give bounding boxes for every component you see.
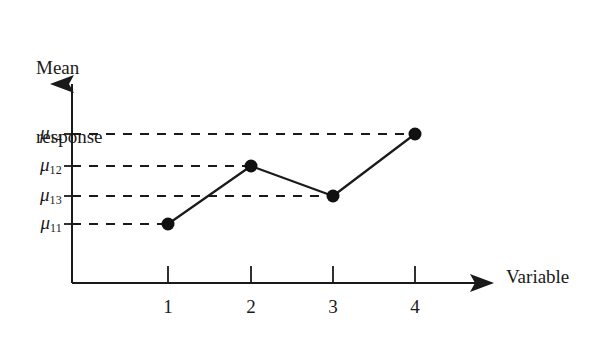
figure-container: Mean response [0, 0, 598, 344]
y-tick-label-mu11: μ11 [26, 212, 62, 236]
mu-subscript: 13 [50, 193, 62, 207]
y-tick-label-mu12: μ12 [26, 154, 62, 178]
data-point-mu11 [162, 218, 175, 231]
mu-subscript: 14 [50, 131, 62, 145]
mu-symbol: μ [40, 122, 50, 143]
data-point-mu12 [245, 160, 258, 173]
reference-dashed-lines [72, 134, 415, 224]
mu-symbol: μ [40, 154, 50, 175]
x-axis [72, 266, 492, 283]
y-tick-label-mu13: μ13 [26, 184, 62, 208]
mu-symbol: μ [40, 184, 50, 205]
mu-symbol: μ [40, 212, 50, 233]
plot-canvas [0, 0, 598, 344]
mu-subscript: 11 [50, 221, 62, 235]
y-tick-label-mu14: μ14 [26, 122, 62, 146]
x-tick-label-4: 4 [395, 296, 435, 318]
data-series-line [168, 134, 415, 224]
x-axis-title: Variable [506, 265, 569, 288]
series-polyline [168, 134, 415, 224]
data-point-mu13 [327, 190, 340, 203]
x-tick-label-3: 3 [313, 296, 353, 318]
data-point-mu14 [409, 128, 422, 141]
x-tick-label-2: 2 [231, 296, 271, 318]
mu-subscript: 12 [50, 163, 62, 177]
x-tick-label-1: 1 [148, 296, 188, 318]
y-axis [64, 84, 78, 283]
data-points [162, 128, 422, 231]
